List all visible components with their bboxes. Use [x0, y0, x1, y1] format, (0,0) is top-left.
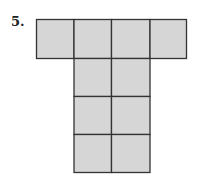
top-cell-3: [112, 20, 151, 59]
column-cell-3-2: [112, 135, 151, 173]
column-cell-1-1: [74, 59, 112, 97]
column-cell-3-1: [74, 135, 112, 173]
column-cell-2-1: [74, 97, 112, 135]
top-cell-4: [150, 20, 187, 59]
t-shaped-net-figure: [0, 0, 198, 183]
top-cell-1: [37, 20, 75, 59]
column-cell-1-2: [112, 59, 151, 97]
column-cell-2-2: [112, 97, 151, 135]
top-cell-2: [74, 20, 112, 59]
